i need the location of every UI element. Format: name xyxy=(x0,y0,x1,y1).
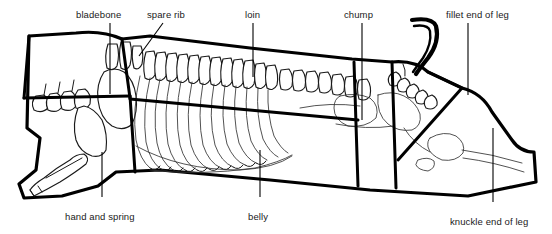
label-knuckle-end-of-leg: knuckle end of leg xyxy=(450,216,528,227)
label-belly: belly xyxy=(248,211,268,222)
label-chump: chump xyxy=(344,9,373,20)
label-bladebone: bladebone xyxy=(76,9,121,20)
label-fillet-end-of-leg: fillet end of leg xyxy=(446,9,509,20)
label-spare-rib: spare rib xyxy=(147,9,185,20)
pork-cuts-diagram: bladebone spare rib loin chump fillet en… xyxy=(0,0,552,234)
label-loin: loin xyxy=(245,9,260,20)
shoulder-process-3 xyxy=(132,46,143,69)
divider-bladebone-bottom xyxy=(24,96,130,98)
label-hand-and-spring: hand and spring xyxy=(65,211,135,222)
carcass-illustration: bladebone spare rib loin chump fillet en… xyxy=(0,0,552,234)
shoulder-process-1 xyxy=(106,44,119,70)
